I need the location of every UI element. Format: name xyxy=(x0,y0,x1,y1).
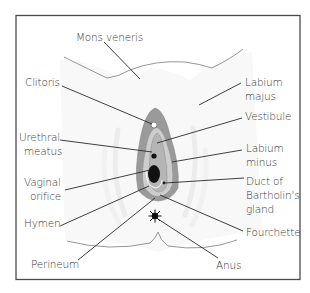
bartholin-duct-shape xyxy=(163,182,166,185)
label-duct-line1: Duct of xyxy=(246,175,283,187)
label-labium-majus-line1: Labium xyxy=(245,76,283,88)
label-labium-minus-line2: minus xyxy=(246,156,277,168)
anatomy-diagram: Mons veneris Clitoris Urethral meatus Va… xyxy=(0,0,310,293)
diagram-root: Mons veneris Clitoris Urethral meatus Va… xyxy=(0,0,310,293)
label-vaginal-orifice-line1: Vaginal xyxy=(24,176,61,188)
vaginal-orifice-shape xyxy=(148,165,160,183)
anus-shape xyxy=(149,210,162,223)
label-labium-minus-line1: Labium xyxy=(246,142,284,154)
urethral-meatus-shape xyxy=(151,153,156,158)
label-fourchette: Fourchette xyxy=(246,226,300,238)
label-duct-line3: gland xyxy=(246,203,274,215)
label-vestibule: Vestibule xyxy=(245,110,291,122)
label-clitoris: Clitoris xyxy=(25,76,60,88)
label-urethral-meatus-line2: meatus xyxy=(24,145,62,157)
label-mons-veneris: Mons veneris xyxy=(76,31,143,43)
label-anus: Anus xyxy=(216,259,241,271)
label-hymen: Hymen xyxy=(24,217,60,229)
label-vaginal-orifice-line2: orifice xyxy=(30,190,61,202)
label-urethral-meatus-line1: Urethral xyxy=(19,131,60,143)
label-labium-majus-line2: majus xyxy=(245,90,276,102)
label-duct-line2: Bartholin's xyxy=(246,189,299,201)
clitoris-shape xyxy=(151,122,157,128)
label-perineum: Perineum xyxy=(31,258,79,270)
